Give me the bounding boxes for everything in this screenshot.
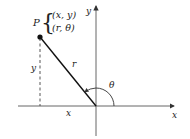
polar-coordinates-label: (r, θ)	[52, 22, 75, 33]
radius-line	[40, 37, 96, 106]
y-axis-label: y	[85, 6, 92, 16]
point-p-dot	[37, 34, 42, 39]
y-length-label: y	[30, 63, 37, 73]
radius-label: r	[72, 59, 77, 69]
x-length-label: x	[66, 108, 71, 118]
x-axis-label: x	[172, 110, 177, 120]
point-p-label: P	[32, 17, 40, 28]
cartesian-coordinates-label: (x, y)	[52, 9, 76, 20]
angle-label: θ	[109, 80, 115, 90]
diagram-svg: P { (x, y) (r, θ) y x y x r θ	[0, 0, 190, 139]
polar-coordinates-diagram: P { (x, y) (r, θ) y x y x r θ	[0, 0, 190, 139]
